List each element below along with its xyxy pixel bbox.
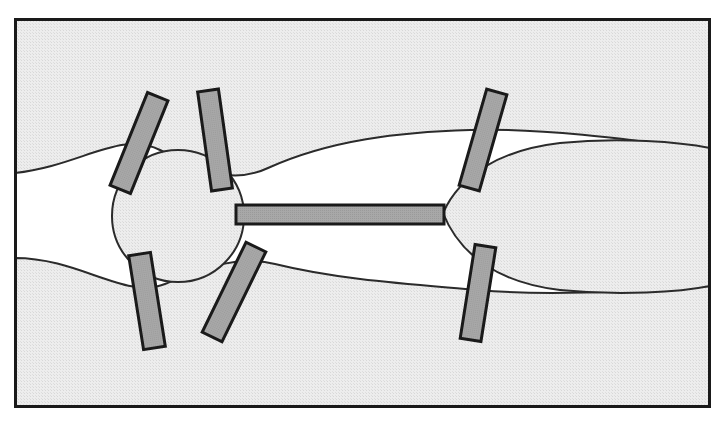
figure-canvas [0,0,727,423]
figure-container [0,0,727,423]
bar-horizontal-connector [236,205,444,224]
